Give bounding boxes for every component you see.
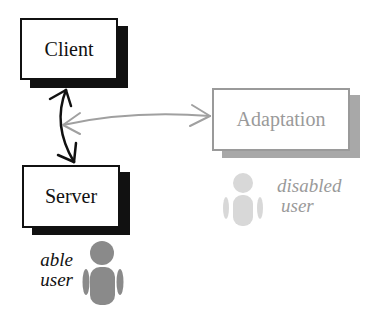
able-user-label: able user: [35, 250, 73, 290]
